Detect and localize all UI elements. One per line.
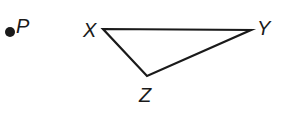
- point-p-dot: [5, 27, 15, 37]
- vertex-x-label: X: [83, 20, 96, 40]
- point-p-label: P: [16, 16, 29, 36]
- vertex-y-label: Y: [257, 18, 270, 38]
- geometry-figure: P X Y Z: [0, 0, 284, 113]
- triangle-xyz: [103, 29, 251, 76]
- vertex-z-label: Z: [139, 85, 151, 105]
